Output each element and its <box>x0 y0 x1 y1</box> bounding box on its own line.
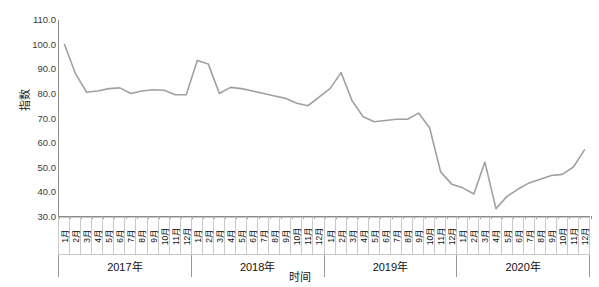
month-label-cell: 9月 <box>148 217 159 255</box>
y-tick-label: 110.0 <box>16 15 56 25</box>
month-label-cell: 12月 <box>579 217 590 255</box>
month-label: 6月 <box>512 229 524 243</box>
month-label-cell: 1月 <box>325 217 336 255</box>
month-label: 4月 <box>357 229 369 243</box>
month-label-cell: 8月 <box>136 217 147 255</box>
y-tick-label: 30.0 <box>16 212 56 222</box>
month-label-cell: 5月 <box>502 217 513 255</box>
line-path <box>65 45 585 209</box>
month-label: 12月 <box>180 227 192 245</box>
month-label-cell: 12月 <box>313 217 324 255</box>
month-label: 2月 <box>335 229 347 243</box>
month-label: 3月 <box>346 229 358 243</box>
month-label: 7月 <box>523 229 535 243</box>
month-label: 9月 <box>545 229 557 243</box>
month-label: 12月 <box>312 227 324 245</box>
y-tick-label: 50.0 <box>16 163 56 173</box>
y-tick-label: 90.0 <box>16 65 56 75</box>
month-label: 4月 <box>489 229 501 243</box>
plot-area <box>58 20 590 217</box>
month-label: 8月 <box>534 229 546 243</box>
line-chart: 指数 110.0100.090.080.070.060.050.040.030.… <box>0 0 599 287</box>
y-tick-label: 80.0 <box>16 89 56 99</box>
x-axis-tick <box>591 216 592 219</box>
month-label: 1月 <box>324 229 336 243</box>
y-tick-label: 100.0 <box>16 40 56 50</box>
y-tick-label: 60.0 <box>16 138 56 148</box>
y-tick-label: 40.0 <box>16 188 56 198</box>
y-axis-tick-labels: 110.0100.090.080.070.060.050.040.030.0 <box>16 0 56 287</box>
month-label-cell: 10月 <box>159 217 170 255</box>
month-label: 8月 <box>135 229 147 243</box>
month-label: 12月 <box>578 227 590 245</box>
x-axis-title: 时间 <box>0 268 599 284</box>
month-label-cell: 4月 <box>490 217 501 255</box>
month-label-cell: 6月 <box>513 217 524 255</box>
month-label: 10月 <box>158 227 170 245</box>
y-tick-label: 70.0 <box>16 114 56 124</box>
month-label: 5月 <box>368 229 380 243</box>
month-label: 5月 <box>501 229 513 243</box>
month-label: 11月 <box>169 227 181 245</box>
month-label: 9月 <box>147 229 159 243</box>
month-label-cell: 2月 <box>336 217 347 255</box>
series-line-indices <box>59 20 590 216</box>
month-label: 1月 <box>191 229 203 243</box>
month-label-band: 1月2月3月4月5月6月7月8月9月10月11月12月1月2月3月4月5月6月7… <box>58 217 590 255</box>
